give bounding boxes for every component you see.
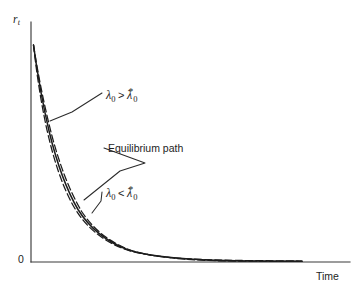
- annotation-lower-subscript: 0: [111, 192, 115, 202]
- annotation-lower-relation: <: [118, 187, 124, 199]
- leader-line-upper: [50, 93, 102, 121]
- figure-container: rt Time 0 λ0>λ*0 Equilibrium path λ0<λ*0: [0, 0, 361, 289]
- y-axis-label-subscript: t: [18, 18, 20, 27]
- annotation-upper-subscript2: 0: [133, 94, 137, 104]
- annotation-lower-subscript2: 0: [133, 192, 137, 202]
- x-axis-label: Time: [316, 271, 339, 282]
- origin-label: 0: [18, 254, 24, 265]
- annotation-lambda-greater: λ0>λ*0: [106, 88, 138, 103]
- annotation-upper-subscript: 0: [111, 94, 115, 104]
- leader-line-lower: [92, 192, 102, 213]
- y-axis-label: rt: [13, 14, 20, 27]
- annotation-upper-relation: >: [118, 89, 124, 101]
- annotation-lambda-less: λ0<λ*0: [106, 186, 138, 201]
- annotation-equilibrium-path: Equilibrium path: [108, 143, 183, 154]
- y-axis-label-main: r: [13, 13, 17, 25]
